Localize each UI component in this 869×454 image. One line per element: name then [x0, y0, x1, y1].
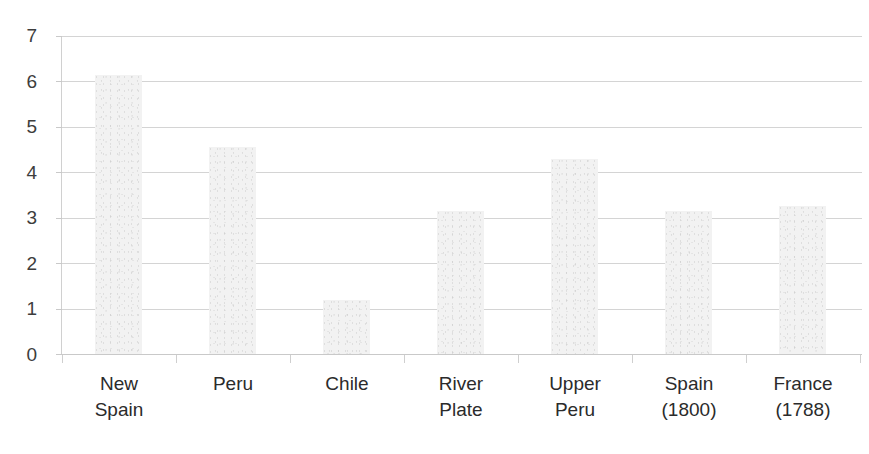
y-axis-line: [61, 36, 62, 355]
y-tick-label-7: 7: [0, 26, 46, 45]
bar-upper-peru[interactable]: [551, 159, 598, 354]
x-label-peru: Peru: [176, 371, 290, 397]
x-tick-mark-2: [290, 355, 291, 363]
x-tick-mark-3: [404, 355, 405, 363]
y-tick-label-5: 5: [0, 117, 46, 136]
y-tick-label-0: 0: [0, 345, 46, 364]
y-tick-mark-6: [56, 81, 62, 82]
y-axis-tick-labels: 7 6 5 4 3 2 1 0: [0, 0, 48, 454]
x-tick-mark-1: [176, 355, 177, 363]
gridline-6: [62, 81, 862, 82]
y-tick-mark-2: [56, 263, 62, 264]
y-tick-mark-4: [56, 172, 62, 173]
x-tick-mark-7: [860, 355, 861, 363]
gridline-5: [62, 127, 862, 128]
bar-chart-figure: 7 6 5 4 3 2 1 0 New Spain Peru Chile Riv…: [0, 0, 869, 454]
bar-river-plate[interactable]: [437, 211, 484, 354]
x-axis-line: [62, 354, 862, 355]
x-label-spain-1800: Spain (1800): [632, 371, 746, 423]
y-tick-label-6: 6: [0, 72, 46, 91]
bar-france-1788[interactable]: [779, 206, 826, 354]
x-tick-mark-6: [746, 355, 747, 363]
y-tick-mark-1: [56, 309, 62, 310]
y-tick-label-3: 3: [0, 208, 46, 227]
y-tick-label-1: 1: [0, 299, 46, 318]
x-tick-mark-0: [62, 355, 63, 363]
x-label-chile: Chile: [290, 371, 404, 397]
y-tick-label-2: 2: [0, 254, 46, 273]
x-axis-category-labels: New Spain Peru Chile River Plate Upper P…: [62, 371, 862, 441]
x-tick-mark-5: [632, 355, 633, 363]
y-tick-label-4: 4: [0, 163, 46, 182]
x-label-river-plate: River Plate: [404, 371, 518, 423]
y-tick-mark-7: [56, 36, 62, 37]
bar-chile[interactable]: [323, 300, 370, 355]
x-label-upper-peru: Upper Peru: [518, 371, 632, 423]
x-tick-mark-4: [518, 355, 519, 363]
x-label-france-1788: France (1788): [746, 371, 860, 423]
bar-spain-1800[interactable]: [665, 211, 712, 354]
gridline-4: [62, 172, 862, 173]
bar-peru[interactable]: [209, 147, 256, 354]
x-label-new-spain: New Spain: [62, 371, 176, 423]
y-tick-mark-3: [56, 218, 62, 219]
bar-new-spain[interactable]: [95, 75, 142, 354]
plot-area: [62, 36, 862, 354]
gridline-7: [62, 36, 862, 37]
y-tick-mark-5: [56, 127, 62, 128]
